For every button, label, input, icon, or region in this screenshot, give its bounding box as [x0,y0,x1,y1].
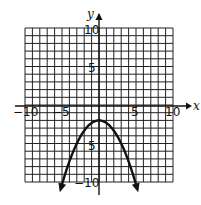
curve-arrow-right-icon [132,182,140,192]
y-tick-label: 10 [84,23,99,37]
x-axis-label: x [193,99,200,113]
curve-arrow-left-icon [58,182,66,192]
x-tick-label: 5 [131,105,139,119]
y-tick-label: 5 [88,61,96,75]
x-axis-arrow-icon [186,103,192,110]
x-tick-label: −10 [13,105,38,119]
y-tick-label: 5 [88,139,96,153]
y-axis-label: y [86,7,94,21]
coordinate-plane: x y −10 −5 5 10 10 5 5 −10 [0,0,201,205]
x-tick-label: 10 [165,105,180,119]
x-tick-label: −5 [52,105,70,119]
y-axis-arrow-icon [96,13,103,20]
y-tick-label: −10 [74,176,99,190]
